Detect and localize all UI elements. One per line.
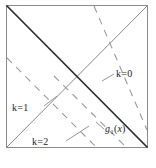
annotation-label-k1: k=1 [12,103,29,113]
plot-canvas [0,0,156,168]
annotation-label-g1: g1(x) [105,124,126,136]
annotation-label-k0: k=0 [116,69,133,79]
annotation-label-k2: k=2 [32,137,49,147]
annotation-k2-value: 2 [43,136,48,147]
annotation-k0-value: 0 [127,68,132,79]
annotation-k1-value: 1 [23,102,28,113]
line-family-figure: k=0 k=1 k=2 g1(x) [0,0,156,168]
annotation-g1-close-paren: ) [122,123,126,134]
